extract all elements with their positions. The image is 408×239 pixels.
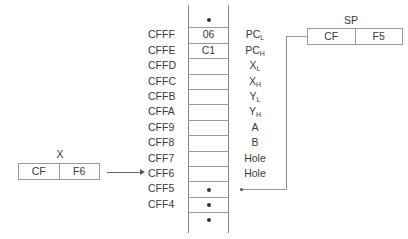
- register-name: Y: [249, 105, 256, 117]
- register-byte-subscript: H: [260, 50, 265, 57]
- stack-cell: [189, 12, 228, 27]
- register-name: Hole: [244, 152, 266, 164]
- stack-address: CFF9: [148, 120, 188, 135]
- stack-content-label: A: [232, 120, 278, 135]
- register-byte-subscript: H: [256, 111, 261, 118]
- stack-cell: [189, 104, 228, 119]
- register-name: X: [249, 75, 256, 87]
- stack-cell: [189, 212, 228, 227]
- sp-register-title: SP: [322, 14, 380, 26]
- stack-content-label: Hole: [232, 166, 278, 181]
- sp-pointer-line-bottom: [242, 189, 287, 190]
- stack-cell: 06: [189, 27, 228, 42]
- x-register: CF F6: [18, 163, 100, 180]
- register-byte-subscript: L: [260, 34, 264, 41]
- ellipsis-dot-icon: [207, 218, 211, 222]
- stack-address: CFF6: [148, 166, 188, 181]
- stack-cell: [189, 197, 228, 212]
- sp-pointer-arrow-icon: [240, 188, 243, 191]
- stack-address: CFFD: [148, 58, 188, 73]
- stack-cell: [189, 58, 228, 73]
- stack-address: CFF5: [148, 181, 188, 196]
- register-name: A: [251, 121, 258, 133]
- x-register-title: X: [40, 148, 80, 160]
- stack-address: CFFA: [148, 104, 188, 119]
- stack-content-label: B: [232, 135, 278, 150]
- stack-cell: [189, 120, 228, 135]
- stack-cell: [189, 135, 228, 150]
- sp-high-byte: CF: [308, 29, 355, 44]
- x-high-byte: CF: [19, 164, 59, 179]
- register-name: PC: [245, 44, 260, 56]
- register-byte-subscript: L: [257, 65, 261, 72]
- stack-cell: [189, 74, 228, 89]
- x-pointer-line: [107, 172, 141, 173]
- ellipsis-dot-icon: [207, 18, 211, 22]
- stack-address: CFFC: [148, 74, 188, 89]
- ellipsis-dot-icon: [207, 188, 211, 192]
- stack-address: CFF4: [148, 197, 188, 212]
- stack-cell-value: C1: [202, 44, 215, 56]
- x-low-byte: F6: [59, 164, 100, 179]
- sp-low-byte: F5: [355, 29, 403, 44]
- stack-address: CFFE: [148, 43, 188, 58]
- stack-cell: [189, 166, 228, 181]
- register-byte-subscript: L: [257, 96, 261, 103]
- register-name: X: [250, 59, 257, 71]
- stack-address: CFF7: [148, 151, 188, 166]
- register-name: PC: [246, 28, 261, 40]
- stack-cell: C1: [189, 43, 228, 58]
- stack-right-edge: [228, 5, 229, 233]
- sp-register: CF F5: [307, 28, 403, 45]
- register-name: B: [251, 136, 258, 148]
- stack-address: CFFB: [148, 89, 188, 104]
- stack-address: CFFF: [148, 27, 188, 42]
- stack-content-label: Hole: [232, 151, 278, 166]
- register-name: Y: [250, 90, 257, 102]
- register-name: Hole: [244, 167, 266, 179]
- sp-pointer-line-vertical: [286, 36, 287, 189]
- register-byte-subscript: H: [256, 81, 261, 88]
- sp-pointer-line: [286, 36, 307, 37]
- ellipsis-dot-icon: [207, 203, 211, 207]
- stack-cell-value: 06: [203, 28, 215, 40]
- stack-cell: [189, 151, 228, 166]
- stack-cell: [189, 89, 228, 104]
- x-pointer-arrow-icon: [140, 169, 145, 175]
- stack-cell: [189, 181, 228, 196]
- stack-address: CFF8: [148, 135, 188, 150]
